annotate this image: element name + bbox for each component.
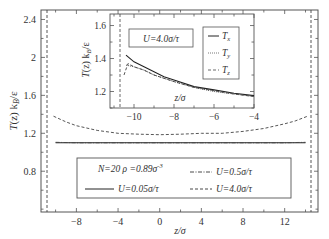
x-tick-label: −10 (127, 112, 142, 122)
legend-label-u005: U=0.05σ/τ (118, 184, 159, 194)
x-tick-label: 12 (280, 216, 290, 227)
y-tick-label: 0.8 (24, 166, 37, 177)
main-x-axis-label: z/σ (173, 225, 187, 236)
inset-annotation: U=4.0σ/τ (143, 34, 179, 44)
y-tick-label: 1.6 (24, 90, 37, 101)
y-tick-label: 1.4 (94, 54, 106, 64)
legend-label-u05: U=0.5σ/τ (216, 167, 252, 177)
x-tick-label: 4 (199, 216, 204, 227)
main-series-lines (54, 116, 308, 143)
inset-y-axis-label: T(z) kB/ε (80, 42, 93, 77)
y-tick-label: 2.4 (24, 14, 37, 25)
legend-header: N=20 ρ =0.89σ-3 (97, 162, 163, 174)
x-tick-label: 0 (157, 216, 162, 227)
chart-figure: −8−4048120.81.21.622.4 T(z) kB/ε z/σ N=2… (0, 0, 329, 239)
y-tick-label: 1.2 (94, 87, 106, 97)
main-y-axis-label: T(z) kB/ε (7, 91, 21, 131)
y-tick-label: 1.6 (94, 21, 106, 31)
inset-x-axis-label: z/σ (173, 93, 185, 103)
inset-plot: −10−8−6−41.21.41.6 T(z) kB/ε z/σ U=4.0σ/… (80, 14, 259, 122)
inset-legend: Tx Ty Tz (203, 27, 239, 79)
x-tick-label: −8 (169, 112, 179, 122)
x-tick-label: −4 (113, 216, 124, 227)
legend-label-u40: U=4.0σ/τ (216, 184, 252, 194)
main-legend: N=20 ρ =0.89σ-3 U=0.05σ/τ U=0.5σ/τ U=4.0… (77, 158, 291, 198)
x-tick-label: −4 (249, 112, 259, 122)
x-tick-label: −6 (209, 112, 219, 122)
y-tick-label: 1.2 (24, 128, 37, 139)
x-tick-label: −8 (71, 216, 82, 227)
x-tick-label: 8 (241, 216, 246, 227)
y-tick-label: 2 (31, 52, 36, 63)
series-line-U40 (54, 116, 308, 135)
